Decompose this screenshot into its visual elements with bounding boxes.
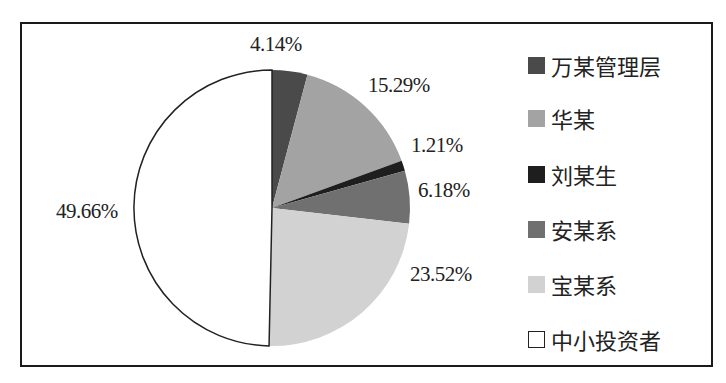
- data-label-bao: 23.52%: [410, 262, 472, 287]
- legend-swatch: [528, 221, 545, 238]
- legend-item-liu: 刘某生: [528, 161, 617, 187]
- legend-item-an: 安某系: [528, 216, 617, 242]
- data-label-huake: 15.29%: [368, 73, 430, 98]
- legend-swatch: [528, 276, 545, 293]
- data-label-an: 6.18%: [418, 178, 470, 203]
- legend-label: 安某系: [551, 213, 617, 245]
- data-label-small-investors: 49.66%: [56, 199, 118, 224]
- legend-swatch: [528, 331, 545, 348]
- legend-item-bao: 宝某系: [528, 271, 617, 297]
- legend-label: 万某管理层: [551, 49, 661, 81]
- pie-slice: [134, 70, 272, 346]
- legend-label: 宝某系: [551, 268, 617, 300]
- pie-slice: [269, 208, 409, 346]
- legend-item-small-investors: 中小投资者: [528, 326, 661, 352]
- data-label-wanke-management: 4.14%: [250, 32, 302, 57]
- legend-label: 华某: [551, 102, 595, 134]
- legend-swatch: [528, 57, 545, 74]
- legend-item-wanke-management: 万某管理层: [528, 52, 661, 78]
- legend-swatch: [528, 166, 545, 183]
- data-label-liu: 1.21%: [411, 133, 463, 158]
- legend-swatch: [528, 110, 545, 127]
- legend-label: 刘某生: [551, 158, 617, 190]
- legend-label: 中小投资者: [551, 323, 661, 355]
- legend-item-huake: 华某: [528, 105, 595, 131]
